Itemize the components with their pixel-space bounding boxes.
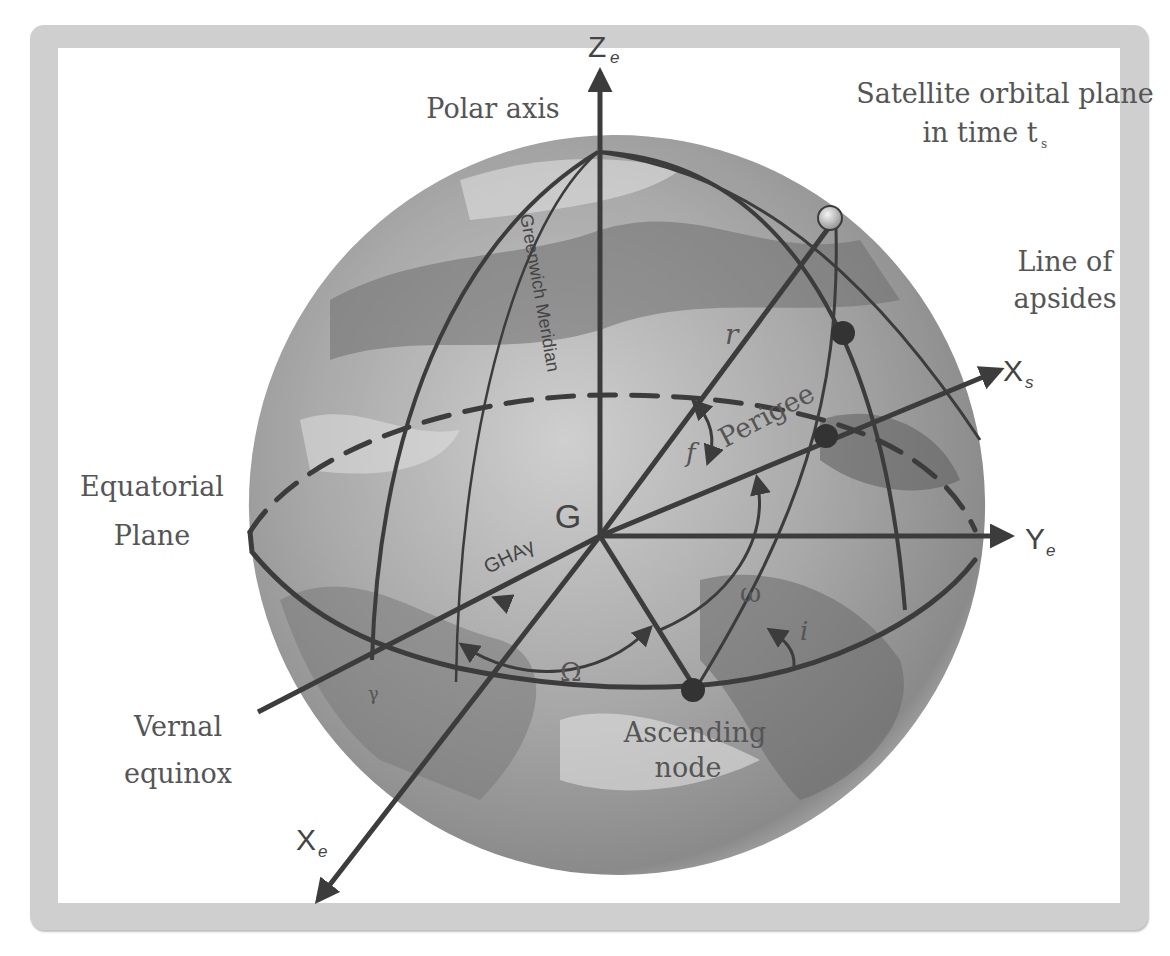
axis-label-ze: Z e	[588, 30, 619, 67]
vernal-equinox-label-line1: Vernal	[133, 711, 222, 742]
gha-arrow	[495, 598, 500, 600]
ye-sub: e	[1046, 541, 1055, 560]
ze-main: Z	[588, 30, 606, 63]
satellite-marker	[818, 206, 842, 230]
ye-main: Y	[1025, 522, 1045, 555]
arg-perigee-label: ω	[740, 578, 761, 608]
line-of-apsides-label-line1: Line of	[1018, 246, 1115, 277]
ze-sub: e	[610, 48, 619, 67]
orbital-plane-label-line1: Satellite orbital plane	[856, 78, 1153, 109]
axis-label-xs: X s	[1003, 354, 1034, 392]
radius-label: r	[725, 318, 740, 351]
ascending-node-label-line2: node	[655, 752, 722, 783]
xe-main: X	[296, 823, 316, 856]
ascending-node-point	[681, 678, 705, 702]
apsides-point	[831, 321, 855, 345]
center-label: G	[555, 497, 581, 535]
vernal-symbol-label: γ	[368, 683, 379, 704]
earth-globe	[180, 67, 1054, 944]
equatorial-plane-label-line1: Equatorial	[80, 471, 224, 502]
raan-label: Ω	[560, 657, 582, 687]
xe-sub: e	[318, 842, 327, 861]
xs-main: X	[1003, 354, 1023, 387]
orbital-elements-diagram: Polar axis Satellite orbital plane in ti…	[0, 0, 1170, 956]
axis-label-ye: Y e	[1025, 522, 1055, 560]
polar-axis-label: Polar axis	[426, 93, 559, 124]
ascending-node-label-line1: Ascending	[623, 717, 766, 748]
orbital-plane-subscript: s	[1041, 137, 1047, 151]
orbital-plane-label-line2: in time t	[922, 117, 1037, 148]
inclination-label: i	[800, 616, 808, 646]
axis-label-xe: X e	[296, 823, 327, 861]
perigee-point	[814, 424, 838, 448]
figure-canvas: Polar axis Satellite orbital plane in ti…	[0, 0, 1170, 956]
xs-sub: s	[1025, 373, 1034, 392]
vernal-equinox-label-line2: equinox	[124, 758, 232, 789]
equatorial-plane-label-line2: Plane	[114, 520, 190, 551]
line-of-apsides-label-line2: apsides	[1014, 283, 1117, 314]
